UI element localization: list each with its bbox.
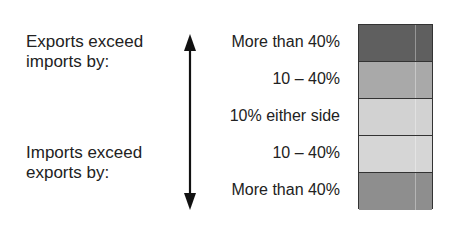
swatch-balanced [359,99,432,136]
category-label-imports-mid: 10 – 40% [272,143,340,163]
legend-swatches [358,24,433,209]
exports-exceed-label: Exports exceed imports by: [26,32,143,72]
category-label-exports-mid: 10 – 40% [272,69,340,89]
category-label-balanced: 10% either side [230,106,340,126]
swatch-exports-mid [359,62,432,99]
swatch-imports-high [359,173,432,210]
imports-exceed-label: Imports exceed exports by: [26,143,142,183]
exports-label-line2: imports by: [26,52,143,72]
category-label-exports-high: More than 40% [231,32,340,52]
swatch-imports-mid [359,136,432,173]
imports-label-line1: Imports exceed [26,143,142,163]
imports-label-line2: exports by: [26,163,142,183]
exports-label-line1: Exports exceed [26,32,143,52]
swatch-exports-high [359,25,432,62]
double-arrow-icon [183,34,197,210]
category-label-imports-high: More than 40% [231,180,340,200]
